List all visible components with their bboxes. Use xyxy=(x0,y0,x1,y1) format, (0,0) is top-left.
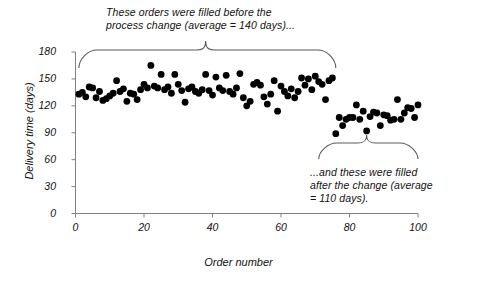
data-point xyxy=(175,81,182,88)
data-point xyxy=(397,116,404,123)
data-point xyxy=(233,84,240,91)
data-point xyxy=(96,88,103,95)
data-point xyxy=(219,87,226,94)
data-point xyxy=(339,122,346,129)
data-point xyxy=(93,94,100,101)
data-points-before-change xyxy=(76,62,336,115)
y-tick-label: 120 xyxy=(22,99,56,111)
y-tick-label: 0 xyxy=(22,207,56,219)
annotation-before-change: These orders were filled before the proc… xyxy=(106,6,356,32)
brace-after-change xyxy=(319,135,418,159)
data-point xyxy=(165,84,172,91)
y-tick-label: 150 xyxy=(22,72,56,84)
data-point xyxy=(171,71,178,78)
y-tick-label: 180 xyxy=(22,45,56,57)
data-point xyxy=(113,77,120,84)
data-point xyxy=(89,84,96,91)
data-point xyxy=(377,122,384,129)
data-point xyxy=(415,102,422,109)
data-point xyxy=(209,92,216,99)
data-point xyxy=(319,81,326,88)
data-point xyxy=(291,94,298,101)
x-tick-label: 0 xyxy=(56,221,96,233)
data-points-after-change xyxy=(332,96,421,137)
data-point xyxy=(247,98,254,105)
data-point xyxy=(363,128,370,135)
data-point xyxy=(82,93,89,100)
data-point xyxy=(374,110,381,117)
data-point xyxy=(267,91,274,98)
data-point xyxy=(274,108,281,115)
y-tick-label: 30 xyxy=(22,180,56,192)
data-point xyxy=(147,62,154,69)
data-point xyxy=(144,84,151,91)
data-point xyxy=(213,74,220,81)
data-point xyxy=(295,88,302,95)
data-point xyxy=(230,91,237,98)
data-point xyxy=(360,108,367,115)
data-point xyxy=(391,116,398,123)
y-axis-ticks xyxy=(72,52,76,214)
data-point xyxy=(237,70,244,77)
data-point xyxy=(411,114,418,121)
data-point xyxy=(182,99,189,106)
data-point xyxy=(110,90,117,97)
chart-canvas xyxy=(0,0,477,283)
x-axis-title: Order number xyxy=(0,256,477,268)
x-tick-label: 20 xyxy=(124,221,164,233)
data-point xyxy=(332,130,339,137)
data-point xyxy=(223,72,230,79)
data-point xyxy=(264,101,271,108)
x-axis-ticks xyxy=(76,214,419,218)
data-point xyxy=(134,96,141,103)
data-point xyxy=(329,75,336,82)
data-point xyxy=(336,114,343,121)
annotation-after-change: ...and these were filled after the chang… xyxy=(310,166,470,205)
data-point xyxy=(356,116,363,123)
data-point xyxy=(322,96,329,103)
x-tick-label: 100 xyxy=(398,221,438,233)
data-point xyxy=(202,71,209,78)
data-point xyxy=(158,71,165,78)
data-point xyxy=(257,82,264,89)
y-tick-label: 60 xyxy=(22,153,56,165)
data-point xyxy=(302,82,309,89)
data-point xyxy=(199,86,206,93)
x-tick-label: 60 xyxy=(261,221,301,233)
data-point xyxy=(350,114,357,121)
data-point xyxy=(353,102,360,109)
data-point xyxy=(298,75,305,82)
x-tick-label: 80 xyxy=(330,221,370,233)
data-point xyxy=(408,105,415,112)
data-point xyxy=(154,84,161,91)
brace-before-change xyxy=(79,41,336,68)
data-point xyxy=(178,87,185,94)
y-tick-label: 90 xyxy=(22,126,56,138)
data-point xyxy=(168,90,175,97)
data-point xyxy=(123,98,130,105)
delivery-time-scatter-chart: These orders were filled before the proc… xyxy=(0,0,477,283)
data-point xyxy=(284,93,291,100)
data-point xyxy=(308,86,315,93)
data-point xyxy=(288,85,295,92)
data-point xyxy=(240,94,247,101)
data-point xyxy=(120,85,127,92)
data-point xyxy=(394,96,401,103)
data-point xyxy=(260,93,267,100)
data-point xyxy=(305,76,312,83)
x-tick-label: 40 xyxy=(193,221,233,233)
data-point xyxy=(271,77,278,84)
